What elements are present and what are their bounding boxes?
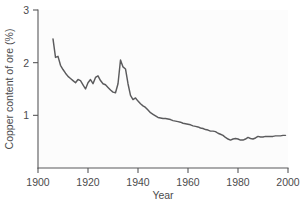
y-tick-label: 2 — [23, 57, 29, 69]
x-axis-ticks — [38, 168, 288, 173]
y-axis-title: Copper content of ore (%) — [3, 29, 15, 150]
x-tick-label: 1900 — [26, 176, 50, 188]
x-tick-label: 2000 — [276, 176, 300, 188]
y-axis-tick-labels: 123 — [23, 4, 29, 121]
x-tick-label: 1920 — [76, 176, 100, 188]
chart-figure: 123 190019201940196019802000 Year Copper… — [0, 0, 301, 205]
y-axis-ticks — [33, 10, 38, 115]
x-axis-tick-labels: 190019201940196019802000 — [26, 176, 300, 188]
x-tick-label: 1960 — [176, 176, 200, 188]
x-tick-label: 1940 — [126, 176, 150, 188]
copper-ore-grade-line-chart: 123 190019201940196019802000 Year Copper… — [0, 0, 301, 205]
x-tick-label: 1980 — [226, 176, 250, 188]
x-axis-title: Year — [152, 189, 174, 201]
plot-background — [38, 10, 288, 168]
y-tick-label: 1 — [23, 109, 29, 121]
y-tick-label: 3 — [23, 4, 29, 16]
